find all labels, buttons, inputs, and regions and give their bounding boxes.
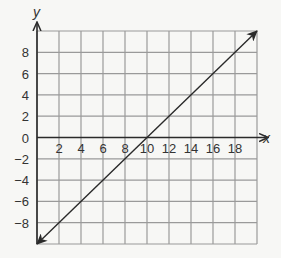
- y-tick-label: 8: [22, 45, 29, 60]
- y-tick-label: −8: [14, 216, 29, 231]
- x-tick-label: 18: [228, 141, 242, 156]
- y-tick-label: −4: [14, 173, 29, 188]
- x-tick-label: 14: [184, 141, 198, 156]
- x-axis-label: x: [262, 130, 271, 146]
- x-tick-label: 2: [55, 141, 62, 156]
- y-tick-label: −2: [14, 152, 29, 167]
- x-tick-label: 16: [206, 141, 220, 156]
- x-tick-label: 6: [99, 141, 106, 156]
- y-tick-label: 0: [22, 131, 29, 146]
- y-axis-label: y: [32, 4, 41, 20]
- x-tick-label: 8: [121, 141, 128, 156]
- chart: 2468101214161886420−2−4−6−8 x y: [0, 0, 281, 258]
- x-tick-label: 12: [162, 141, 176, 156]
- y-tick-label: −6: [14, 194, 29, 209]
- y-tick-label: 6: [22, 67, 29, 82]
- y-tick-label: 2: [22, 109, 29, 124]
- x-tick-label: 4: [77, 141, 84, 156]
- y-tick-label: 4: [22, 88, 29, 103]
